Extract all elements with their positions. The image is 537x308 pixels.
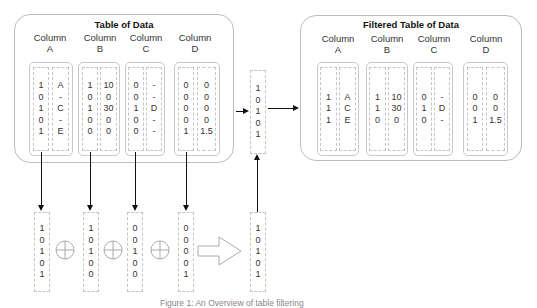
right-col-a-header: ColumnA [316, 33, 360, 55]
figure-caption: Figure 1: An Overview of table filtering [160, 298, 304, 308]
left-d-values: 00001.5 [197, 67, 216, 151]
arrow-up-icon [254, 154, 260, 160]
left-b-mask: 10100 [82, 67, 98, 151]
left-b-values: 1003000 [100, 67, 117, 151]
arrow-down-icon [87, 205, 93, 211]
arrow-result-up-line [257, 160, 258, 212]
left-c-values: --D-- [146, 67, 162, 151]
right-d-mask: 001 [467, 67, 483, 151]
arrow-down-icon [183, 205, 189, 211]
circled-plus-icon [55, 240, 75, 260]
left-a-values: A-C-E [52, 67, 69, 151]
arrow-col-d-down-line [186, 152, 187, 205]
right-a-mask: 111 [320, 67, 337, 151]
right-b-mask: 110 [369, 67, 386, 151]
left-col-c-header: ColumnC [124, 32, 168, 54]
bottom-vector-c: 00100 [127, 212, 143, 292]
arrow-col-b-down-line [90, 152, 91, 205]
right-d-values: 001.5 [486, 67, 505, 151]
mid-result-vector: 10101 [250, 70, 266, 154]
filtered-table-title: Filtered Table of Data [300, 19, 522, 30]
arrow-col-c-down-line [135, 152, 136, 205]
circled-plus-icon [103, 240, 123, 260]
arrow-vector-to-filtered-line [268, 108, 294, 109]
bottom-vector-b: 10100 [83, 212, 99, 292]
right-col-d-header: ColumnD [464, 33, 508, 55]
left-col-b-header: ColumnB [78, 32, 122, 54]
left-a-mask: 10101 [33, 67, 49, 151]
left-d-mask: 00001 [178, 67, 194, 151]
bottom-vector-d: 00001 [178, 212, 194, 292]
arrow-right-icon [243, 108, 249, 114]
arrow-right-icon [293, 105, 299, 111]
left-c-mask: 00100 [128, 67, 144, 151]
right-c-values: -D- [434, 67, 450, 151]
bottom-result-vector: 10101 [250, 212, 266, 292]
circled-plus-icon [150, 240, 170, 260]
hollow-right-arrow-icon [197, 236, 243, 266]
arrow-col-a-down-line [41, 152, 42, 205]
left-col-d-header: ColumnD [173, 32, 217, 54]
right-a-values: ACE [339, 67, 356, 151]
bottom-vector-a: 10101 [34, 212, 50, 292]
right-b-values: 10300 [388, 67, 405, 151]
right-c-mask: 010 [416, 67, 432, 151]
table-of-data-title: Table of Data [14, 19, 234, 30]
arrow-down-icon [38, 205, 44, 211]
arrow-down-icon [132, 205, 138, 211]
right-col-b-header: ColumnB [365, 33, 409, 55]
right-col-c-header: ColumnC [412, 33, 456, 55]
left-col-a-header: ColumnA [28, 32, 72, 54]
